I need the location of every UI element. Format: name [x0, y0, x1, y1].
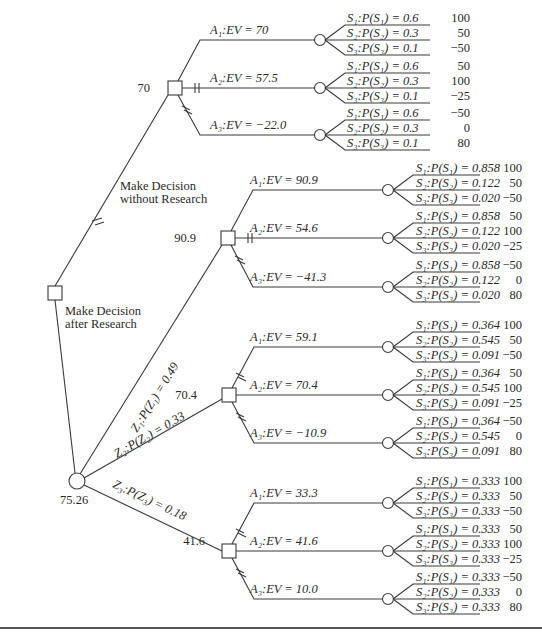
payoff-value: −25 [502, 239, 522, 253]
payoff-value: 50 [510, 489, 523, 503]
payoff-value: −25 [450, 89, 470, 103]
state-label: S₂:P(S₂) = 0.3 [347, 74, 419, 88]
state-label: S₂:P(S₂) = 0.545 [416, 429, 500, 443]
state-label: S₁:P(S₁) = 0.858 [416, 161, 501, 175]
state-label: S₂:P(S₂) = 0.545 [416, 381, 500, 395]
payoff-value: 100 [503, 537, 522, 551]
alternative-label: A₂:EV = 57.5 [209, 71, 278, 85]
payoff-value: 100 [503, 318, 522, 332]
state-label: S₂:P(S₂) = 0.333 [416, 489, 500, 503]
state-label: S₃:P(S₃) = 0.020 [416, 239, 501, 253]
alternative-label: A₁:EV = 33.3 [249, 486, 318, 500]
decision-subtree-1: 70A₁:EV = 70S₁:P(S₁) = 0.6100S₂:P(S₂) = … [138, 11, 471, 150]
state-label: S₂:P(S₂) = 0.333 [416, 585, 500, 599]
payoff-value: 80 [510, 600, 523, 614]
payoff-value: −50 [502, 414, 522, 428]
state-label: S₃:P(S₃) = 0.091 [416, 348, 500, 362]
payoff-value: 80 [510, 444, 523, 458]
payoff-value: −25 [502, 552, 522, 566]
chance-node [315, 130, 326, 141]
without-research-label-2: without Research [120, 192, 208, 206]
payoff-value: 80 [458, 136, 471, 150]
decision-ev-value: 90.9 [174, 231, 196, 245]
prune-mark [238, 377, 246, 381]
state-label: S₃:P(S₃) = 0.091 [416, 396, 500, 410]
alternative-label: A₃:EV = −41.3 [249, 270, 326, 284]
payoff-value: 0 [464, 121, 470, 135]
state-label: S₁:P(S₁) = 0.858 [416, 209, 501, 223]
chance-node [315, 35, 326, 46]
chance-node [383, 594, 394, 605]
state-label: S₂:P(S₂) = 0.122 [416, 176, 500, 190]
payoff-value: −50 [502, 258, 522, 272]
payoff-value: 80 [510, 288, 523, 302]
chance-node [383, 342, 394, 353]
state-label: S₂:P(S₂) = 0.122 [416, 224, 500, 238]
prune-mark [92, 218, 102, 221]
decision-node [222, 544, 236, 558]
chance-node [383, 438, 394, 449]
payoff-value: 50 [510, 522, 523, 536]
payoff-value: 100 [451, 74, 470, 88]
alternative-label: A₂:EV = 54.6 [249, 221, 318, 235]
state-label: S₂:P(S₂) = 0.545 [416, 333, 500, 347]
research-ev-value: 75.26 [60, 493, 88, 507]
payoff-value: 100 [503, 474, 522, 488]
state-label: S₂:P(S₂) = 0.3 [347, 121, 419, 135]
state-label: S₃:P(S₃) = 0.333 [416, 504, 500, 518]
alternative-label: A₃:EV = −22.0 [209, 118, 287, 132]
payoff-value: −50 [502, 348, 522, 362]
state-label: S₃:P(S₃) = 0.333 [416, 552, 500, 566]
decision-ev-value: 41.6 [183, 534, 205, 548]
prune-mark [238, 533, 246, 537]
decision-ev-value: 70.4 [175, 388, 198, 402]
state-label: S₃:P(S₃) = 0.333 [416, 600, 500, 614]
decision-subtree-2: 90.9A₁:EV = 90.9S₁:P(S₁) = 0.858100S₂:P(… [174, 161, 522, 302]
payoff-value: −50 [450, 106, 470, 120]
chance-node [383, 390, 394, 401]
alternative-label: A₂:EV = 70.4 [249, 378, 318, 392]
payoff-value: 50 [458, 59, 471, 73]
state-label: S₁:P(S₁) = 0.364 [416, 366, 500, 380]
chance-node [383, 233, 394, 244]
chance-node [383, 282, 394, 293]
decision-subtree-3: 70.4A₁:EV = 59.1S₁:P(S₁) = 0.364100S₂:P(… [175, 318, 522, 458]
payoff-value: 50 [510, 176, 523, 190]
chance-node [383, 185, 394, 196]
payoff-value: −50 [502, 570, 522, 584]
chance-node [383, 546, 394, 557]
prune-mark [95, 222, 104, 225]
payoff-value: 50 [510, 209, 523, 223]
payoff-value: 100 [503, 381, 522, 395]
state-label: S₁:P(S₁) = 0.858 [416, 258, 501, 272]
after-research-label-1: Make Decision [65, 304, 142, 318]
alternative-label: A₁:EV = 59.1 [249, 330, 318, 344]
state-label: S₁:P(S₁) = 0.6 [347, 11, 419, 25]
payoff-value: 100 [503, 161, 522, 175]
research-chance-node [69, 473, 85, 489]
alternative-label: A₁:EV = 70 [209, 23, 269, 37]
payoff-value: −25 [502, 396, 522, 410]
state-label: S₃:P(S₃) = 0.1 [347, 89, 419, 103]
alternative-label: A₂:EV = 41.6 [249, 534, 318, 548]
decision-node [168, 81, 182, 95]
payoff-value: 0 [516, 273, 522, 287]
state-label: S₁:P(S₁) = 0.6 [347, 106, 419, 120]
decision-ev-value: 70 [138, 81, 151, 95]
state-label: S₁:P(S₁) = 0.364 [416, 318, 500, 332]
root-decision-node [48, 286, 62, 300]
payoff-value: 50 [458, 26, 471, 40]
state-label: S₁:P(S₁) = 0.333 [416, 522, 500, 536]
payoff-value: 50 [510, 333, 523, 347]
state-label: S₁:P(S₁) = 0.333 [416, 474, 500, 488]
state-label: S₃:P(S₃) = 0.1 [347, 136, 419, 150]
payoff-value: 0 [516, 585, 522, 599]
after-research-label-2: after Research [65, 317, 138, 331]
state-label: S₃:P(S₃) = 0.1 [347, 41, 419, 55]
state-label: S₂:P(S₂) = 0.333 [416, 537, 500, 551]
alternative-label: A₁:EV = 90.9 [249, 173, 318, 187]
chance-node [315, 83, 326, 94]
state-label: S₁:P(S₁) = 0.333 [416, 570, 500, 584]
state-label: S₂:P(S₂) = 0.122 [416, 273, 500, 287]
state-label: S₁:P(S₁) = 0.364 [416, 414, 500, 428]
